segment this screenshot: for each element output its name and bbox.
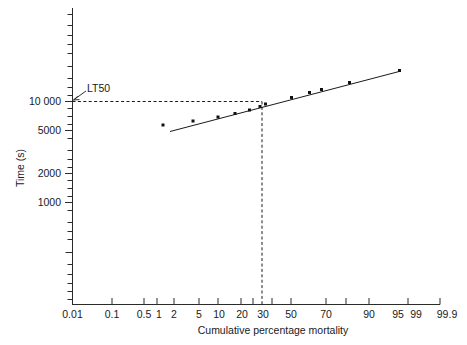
data-point bbox=[398, 69, 401, 72]
x-tick-label-50: 50 bbox=[285, 308, 297, 320]
y-tick-label-1000: 1000 bbox=[38, 196, 62, 208]
x-tick-label-30: 30 bbox=[257, 308, 269, 320]
x-tick-label-2: 2 bbox=[171, 308, 177, 320]
x-tick-label-5: 5 bbox=[196, 308, 202, 320]
x-tick-label-0-1: 0.1 bbox=[105, 308, 120, 320]
data-point bbox=[320, 88, 323, 91]
x-tick-label-20: 20 bbox=[236, 308, 248, 320]
lt50-probit-chart: 10 000 5000 2000 1000 Time (s) 0.01 bbox=[0, 0, 467, 345]
data-point bbox=[217, 116, 220, 119]
x-tick-label-90: 90 bbox=[363, 308, 375, 320]
x-tick-label-0-5: 0.5 bbox=[137, 308, 152, 320]
x-tick-label-1: 1 bbox=[156, 308, 162, 320]
x-tick-label-99: 99 bbox=[410, 308, 422, 320]
y-tick-label-10000: 10 000 bbox=[29, 95, 61, 107]
lt50-label: LT50 bbox=[87, 82, 110, 94]
x-axis-title: Cumulative percentage mortality bbox=[198, 324, 349, 336]
x-tick-label-0-01: 0.01 bbox=[62, 308, 83, 320]
y-axis-title: Time (s) bbox=[14, 149, 26, 187]
data-point bbox=[162, 124, 165, 127]
data-point bbox=[348, 81, 351, 84]
data-point bbox=[290, 96, 293, 99]
data-point bbox=[192, 120, 195, 123]
data-point bbox=[248, 109, 251, 112]
x-tick-label-70: 70 bbox=[320, 308, 332, 320]
x-tick-label-10: 10 bbox=[213, 308, 225, 320]
x-tick-label-95: 95 bbox=[392, 308, 404, 320]
data-point bbox=[234, 112, 237, 115]
chart-background bbox=[0, 0, 467, 345]
data-point bbox=[259, 105, 262, 108]
y-tick-label-5000: 5000 bbox=[38, 124, 62, 136]
y-tick-label-2000: 2000 bbox=[38, 167, 62, 179]
x-tick-label-99-9: 99.9 bbox=[437, 308, 458, 320]
data-point bbox=[308, 91, 311, 94]
data-point bbox=[264, 103, 267, 106]
